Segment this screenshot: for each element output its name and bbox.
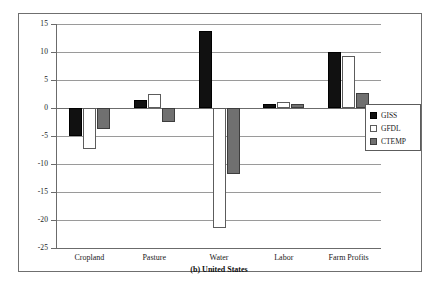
- bar-giss-cropland: [69, 108, 82, 136]
- bar-gfdl-farm-profits: [342, 56, 355, 108]
- bar-giss-labor: [263, 104, 276, 108]
- bar-gfdl-cropland: [83, 108, 96, 149]
- black-square-icon: [370, 112, 377, 119]
- y-axis-tick-label: 0: [22, 104, 48, 112]
- bar-ctemp-pasture: [162, 108, 175, 122]
- bar-ctemp-water: [227, 108, 240, 174]
- chart-subtitle: (b) United States: [57, 265, 381, 274]
- bar-ctemp-labor: [291, 104, 304, 108]
- y-axis-tick-label: 5: [22, 76, 48, 84]
- y-axis-tick-label: -15: [22, 188, 48, 196]
- bar-giss-water: [199, 31, 212, 108]
- plot-area: [57, 24, 381, 248]
- gridline: [57, 248, 381, 249]
- chart-figure: 151050-5-10-15-20-25 CroplandPastureWate…: [0, 0, 441, 287]
- x-axis-label-water: Water: [187, 253, 252, 262]
- bar-giss-pasture: [134, 100, 147, 108]
- y-axis-tick-label: -10: [22, 160, 48, 168]
- legend-item-giss: GISS: [370, 109, 420, 122]
- gridline: [57, 24, 381, 25]
- white-square-icon: [370, 125, 377, 132]
- legend-label-giss: GISS: [381, 112, 397, 120]
- chart-legend: GISS GFDL CTEMP: [365, 104, 421, 151]
- y-axis-tick-label: -25: [22, 244, 48, 252]
- x-axis-label-labor: Labor: [251, 253, 316, 262]
- bar-gfdl-water: [213, 108, 226, 228]
- bar-gfdl-labor: [277, 102, 290, 108]
- y-axis-tick-label: -5: [22, 132, 48, 140]
- legend-item-gfdl: GFDL: [370, 122, 420, 135]
- y-axis-tick-label: 15: [22, 20, 48, 28]
- x-axis-label-farm-profits: Farm Profits: [316, 253, 381, 262]
- bar-gfdl-pasture: [148, 94, 161, 108]
- legend-label-gfdl: GFDL: [381, 125, 401, 133]
- bar-giss-farm-profits: [328, 52, 341, 108]
- legend-label-ctemp: CTEMP: [381, 138, 406, 146]
- y-axis-tick-label: 10: [22, 48, 48, 56]
- x-axis-label-pasture: Pasture: [122, 253, 187, 262]
- legend-item-ctemp: CTEMP: [370, 135, 420, 148]
- gray-square-icon: [370, 138, 377, 145]
- y-axis-tick-label: -20: [22, 216, 48, 224]
- bar-ctemp-cropland: [97, 108, 110, 129]
- x-axis-label-cropland: Cropland: [57, 253, 122, 262]
